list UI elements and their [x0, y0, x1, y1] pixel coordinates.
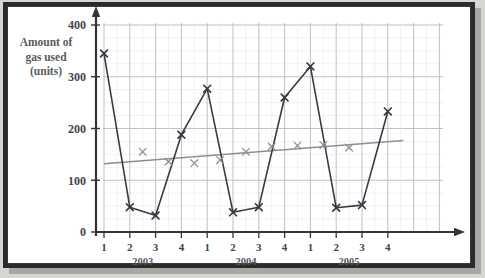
x-axis-year-label: 2004 — [235, 256, 257, 267]
x-axis-quarter-label: 4 — [179, 241, 185, 253]
x-axis-quarter-label: 2 — [333, 241, 339, 253]
x-axis-quarter-label: 4 — [385, 241, 391, 253]
x-axis-quarter-label: 3 — [256, 241, 262, 253]
y-axis-title-line: (units) — [30, 65, 62, 78]
chart-gridlines — [103, 23, 443, 232]
y-axis-tick-label: 200 — [68, 122, 86, 136]
y-axis-tick-label: 100 — [68, 174, 86, 188]
x-axis-quarter-label: 2 — [127, 241, 133, 253]
trend-line — [104, 140, 403, 163]
x-axis-year-label: 2003 — [132, 256, 153, 267]
x-axis-year-label: 2005 — [339, 256, 360, 267]
y-axis-tick-label: 400 — [68, 18, 86, 32]
x-axis-quarter-label: 3 — [153, 241, 159, 253]
x-axis-ticks: 123412341234200320042005 — [101, 232, 391, 267]
x-axis-quarter-label: 3 — [359, 241, 365, 253]
x-axis-quarter-label: 1 — [204, 241, 210, 253]
x-axis-quarter-label: 1 — [101, 241, 107, 253]
y-axis-tick-label: 0 — [80, 225, 86, 239]
chart-canvas: 0100200300400Amount ofgas used(units)123… — [0, 0, 485, 278]
y-axis-arrowhead — [92, 6, 100, 17]
x-axis-quarter-label: 4 — [282, 241, 288, 253]
y-axis-title: Amount ofgas used(units) — [20, 36, 73, 78]
y-axis-title-line: gas used — [25, 51, 67, 64]
y-axis-title-line: Amount of — [20, 36, 73, 48]
line-chart: 0100200300400Amount ofgas used(units)123… — [0, 0, 485, 278]
x-axis-quarter-label: 1 — [308, 241, 314, 253]
x-axis-quarter-label: 2 — [230, 241, 236, 253]
x-axis-arrowhead — [454, 228, 465, 236]
y-axis-tick-label: 300 — [68, 70, 86, 84]
